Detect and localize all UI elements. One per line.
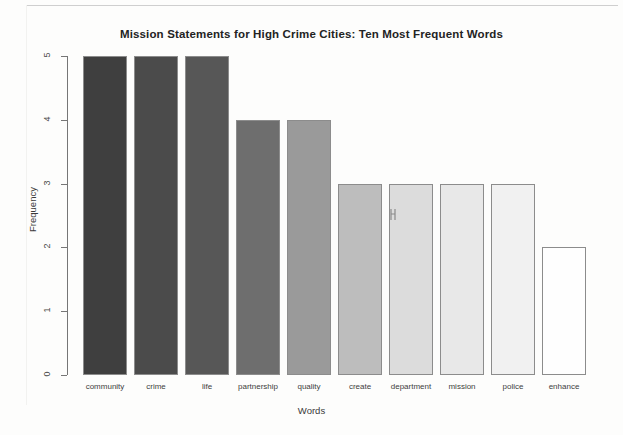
y-axis-tick [61,184,67,185]
y-axis-tick-label: 2 [42,237,52,255]
x-axis-label-department: department [389,382,433,391]
y-axis-tick-label: 1 [42,301,52,319]
y-axis-title: Frequency [27,170,38,250]
bar-mission [440,184,484,375]
y-axis-tick-label: 0 [42,365,52,383]
y-axis-tick-label: 3 [42,174,52,192]
bar-partnership [236,120,280,375]
bar-quality [287,120,331,375]
x-axis-line [67,375,590,376]
chart-screenshot: Mission Statements for High Crime Cities… [0,0,623,435]
bar-police [491,184,535,375]
x-axis-label-life: life [185,382,229,391]
mouse-pointer-icon [390,209,397,220]
x-axis-label-partnership: partnership [236,382,280,391]
x-axis-label-enhance: enhance [542,382,586,391]
bar-enhance [542,247,586,375]
y-axis-tick [61,247,67,248]
x-axis-label-community: community [83,382,127,391]
x-axis-label-quality: quality [287,382,331,391]
y-axis-tick-label: 4 [42,110,52,128]
x-axis-label-police: police [491,382,535,391]
bar-life [185,56,229,375]
y-axis-tick-label: 5 [42,46,52,64]
x-axis-label-mission: mission [440,382,484,391]
chart-title: Mission Statements for High Crime Cities… [0,28,623,40]
y-axis-tick [61,56,67,57]
x-axis-label-create: create [338,382,382,391]
bar-community [83,56,127,375]
bar-create [338,184,382,375]
y-axis-tick [61,311,67,312]
bar-crime [134,56,178,375]
mouse-pointer-glyph [390,209,397,220]
y-axis-tick [61,375,67,376]
y-axis-line [67,56,68,375]
x-axis-label-crime: crime [134,382,178,391]
x-axis-title: Words [0,405,623,416]
y-axis-tick [61,120,67,121]
scan-frame-top-border [26,5,618,6]
plot-area [83,50,595,375]
